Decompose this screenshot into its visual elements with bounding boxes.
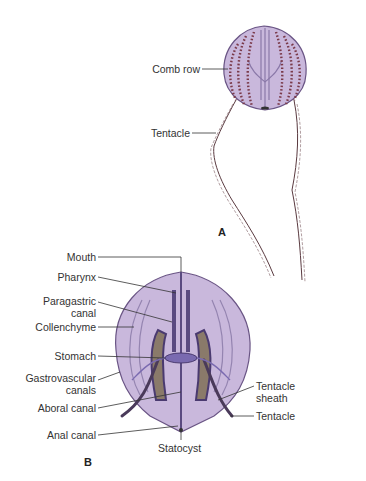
label-gastrovascular: Gastrovascular [5, 372, 96, 384]
panel-a-illustration [211, 26, 306, 282]
panel-letter-a: A [218, 226, 226, 238]
label-paragastric: Paragastric [10, 295, 96, 307]
panel-b-illustration [116, 272, 250, 432]
label-mouth: Mouth [10, 251, 96, 263]
label-gastrovascular-2: canals [5, 384, 96, 396]
label-anal-canal: Anal canal [5, 429, 96, 441]
label-aboral-canal: Aboral canal [5, 402, 96, 414]
panel-letter-b: B [84, 456, 92, 468]
label-collenchyme: Collenchyme [10, 321, 96, 333]
panel-a-leaders [192, 69, 228, 133]
label-statocyst: Statocyst [158, 442, 201, 454]
label-tentacle-a: Tentacle [140, 127, 190, 139]
label-paragastric-2: canal [10, 307, 96, 319]
label-tentacle-sheath: Tentacle [256, 380, 295, 392]
label-pharynx: Pharynx [10, 271, 96, 283]
label-tentacle-sheath-2: sheath [256, 392, 288, 404]
label-comb-row: Comb row [150, 63, 200, 75]
label-stomach: Stomach [10, 350, 96, 362]
label-tentacle-b: Tentacle [256, 410, 295, 422]
